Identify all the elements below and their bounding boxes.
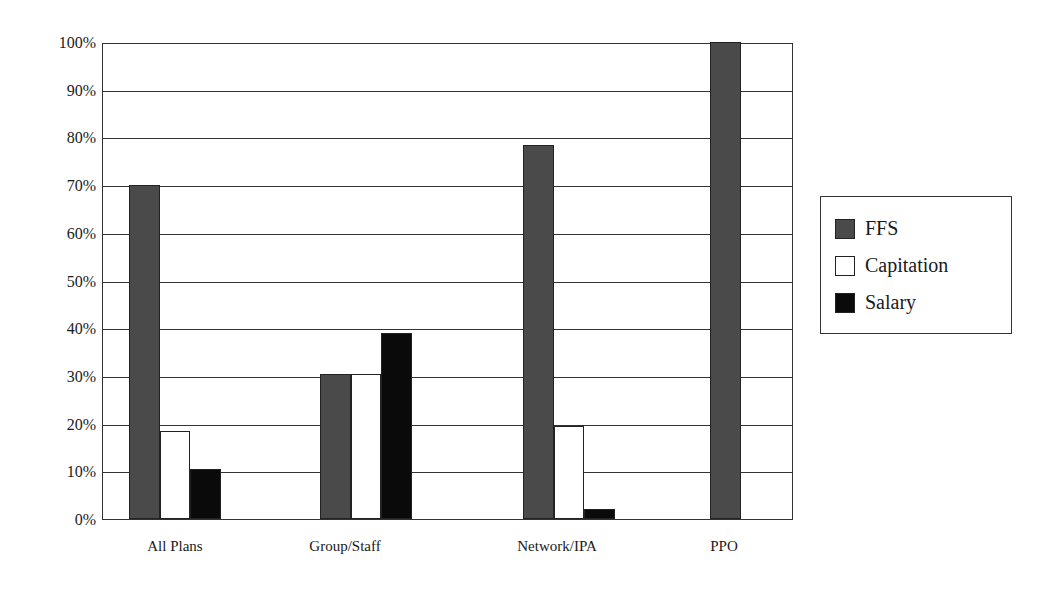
y-tick-label: 50% xyxy=(16,274,96,290)
y-tick-label: 0% xyxy=(16,512,96,528)
gridline xyxy=(103,234,792,235)
bar-salary-all-plans xyxy=(190,469,221,519)
legend-item-capitation: Capitation xyxy=(835,254,948,277)
x-tick-label: PPO xyxy=(710,538,738,555)
y-tick-label: 80% xyxy=(16,130,96,146)
legend-swatch-capitation xyxy=(835,256,855,276)
gridline xyxy=(103,282,792,283)
plot-area xyxy=(102,43,793,520)
legend: FFS Capitation Salary xyxy=(820,196,1012,334)
bar-capitation-all-plans xyxy=(160,431,191,519)
x-tick-label: All Plans xyxy=(147,538,202,555)
gridline xyxy=(103,91,792,92)
legend-label: FFS xyxy=(865,217,898,240)
y-tick-label: 100% xyxy=(16,35,96,51)
gridline xyxy=(103,377,792,378)
y-tick-label: 90% xyxy=(16,83,96,99)
bar-ffs-network-ipa xyxy=(523,145,554,519)
gridline xyxy=(103,329,792,330)
bar-capitation-network-ipa xyxy=(554,426,585,519)
bar-chart: FFS Capitation Salary 0%10%20%30%40%50%6… xyxy=(0,0,1061,591)
legend-item-salary: Salary xyxy=(835,291,916,314)
y-tick-label: 20% xyxy=(16,417,96,433)
legend-label: Salary xyxy=(865,291,916,314)
legend-label: Capitation xyxy=(865,254,948,277)
bar-salary-network-ipa xyxy=(584,509,615,519)
bar-capitation-group-staff xyxy=(351,374,382,519)
legend-swatch-ffs xyxy=(835,219,855,239)
x-tick-label: Network/IPA xyxy=(517,538,596,555)
y-tick-label: 10% xyxy=(16,464,96,480)
y-tick-label: 70% xyxy=(16,178,96,194)
gridline xyxy=(103,186,792,187)
y-tick-label: 60% xyxy=(16,226,96,242)
bar-salary-group-staff xyxy=(381,333,412,519)
bar-ffs-group-staff xyxy=(320,374,351,519)
gridline xyxy=(103,425,792,426)
bar-ffs-all-plans xyxy=(129,185,160,519)
y-tick-label: 40% xyxy=(16,321,96,337)
bar-ffs-ppo xyxy=(710,42,741,519)
gridline xyxy=(103,138,792,139)
x-tick-label: Group/Staff xyxy=(309,538,380,555)
legend-item-ffs: FFS xyxy=(835,217,898,240)
y-tick-label: 30% xyxy=(16,369,96,385)
legend-swatch-salary xyxy=(835,293,855,313)
